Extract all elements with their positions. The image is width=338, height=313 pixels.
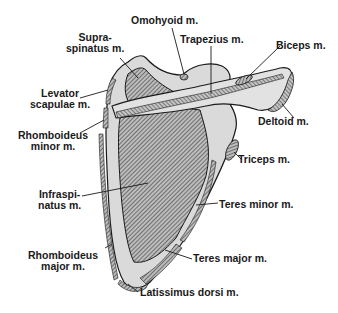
infraspinatus-area	[119, 108, 209, 262]
label-supraspinatus: Supra- spinatus m.	[66, 32, 124, 54]
label-triceps: Triceps m.	[238, 154, 290, 165]
omohyoid-attachment	[180, 74, 188, 80]
rhomboideus-minor-attachment	[103, 108, 108, 128]
label-omohyoid: Omohyoid m.	[131, 15, 198, 26]
label-latissimus-dorsi-line1: Latissimus dorsi m.	[140, 287, 239, 298]
label-rhomboideus-minor-line2: minor m.	[18, 141, 88, 152]
label-deltoid: Deltoid m.	[258, 116, 309, 127]
label-levator-scapulae: Levator scapulae m.	[30, 88, 90, 110]
label-rhomboideus-major-line2: major m.	[28, 261, 98, 272]
label-rhomboideus-major: Rhomboideus major m.	[28, 250, 98, 272]
label-biceps-line1: Biceps m.	[276, 40, 326, 51]
label-deltoid-line1: Deltoid m.	[258, 116, 309, 127]
label-supraspinatus-line2: spinatus m.	[66, 43, 124, 54]
label-levator-scapulae-line2: scapulae m.	[30, 99, 90, 110]
label-trapezius: Trapezius m.	[180, 34, 244, 45]
label-teres-major: Teres major m.	[193, 253, 267, 264]
label-infraspinatus-line2: natus m.	[38, 200, 81, 211]
label-infraspinatus: Infraspi- natus m.	[38, 189, 81, 211]
label-latissimus-dorsi: Latissimus dorsi m.	[140, 287, 239, 298]
label-teres-minor: Teres minor m.	[219, 199, 294, 210]
label-trapezius-line1: Trapezius m.	[180, 34, 244, 45]
label-rhomboideus-minor: Rhomboideus minor m.	[18, 130, 88, 152]
label-biceps: Biceps m.	[276, 40, 326, 51]
label-omohyoid-line1: Omohyoid m.	[131, 15, 198, 26]
label-teres-major-line1: Teres major m.	[193, 253, 267, 264]
label-teres-minor-line1: Teres minor m.	[219, 199, 294, 210]
label-triceps-line1: Triceps m.	[238, 154, 290, 165]
